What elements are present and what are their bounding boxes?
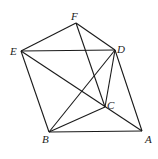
segment-EB (21, 51, 49, 132)
segment-BC (49, 107, 105, 132)
segment-DA (115, 50, 142, 131)
segment-FD (76, 23, 115, 50)
segment-FC (76, 23, 105, 107)
segment-ED (21, 50, 115, 51)
segment-EF (21, 23, 76, 51)
label-D: D (116, 43, 125, 55)
label-C: C (107, 99, 115, 111)
edges-group (21, 23, 142, 132)
segment-DB (49, 50, 115, 132)
label-F: F (70, 10, 78, 22)
segment-BA (49, 131, 142, 132)
geometry-figure: A B C D E F (0, 0, 158, 159)
label-E: E (9, 45, 17, 57)
label-B: B (42, 133, 49, 145)
label-A: A (144, 133, 152, 145)
